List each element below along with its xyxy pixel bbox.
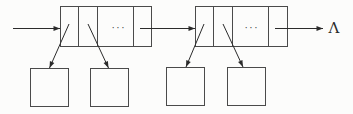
- node-box: [196, 7, 288, 47]
- child-square-2: [91, 69, 129, 107]
- null-pointer-arrow: [275, 26, 323, 31]
- list-node-1: ···: [61, 7, 152, 47]
- linked-list-diagram: ······Λ: [0, 0, 353, 114]
- child-square-3: [167, 68, 205, 106]
- arrowhead: [189, 26, 196, 31]
- next-pointer-arrow: [140, 26, 195, 31]
- ellipsis-label: ···: [245, 23, 260, 33]
- null-lambda-label: Λ: [328, 19, 340, 37]
- arrowhead: [50, 61, 55, 68]
- arrowhead: [317, 26, 324, 31]
- diagram-canvas: ······Λ: [0, 0, 353, 114]
- arrowhead: [186, 60, 191, 67]
- child-square-4: [228, 68, 266, 106]
- node-box: [61, 7, 152, 47]
- list-node-2: ···: [196, 7, 288, 47]
- entry-pointer-arrow: [13, 26, 60, 31]
- child-square-1: [31, 69, 69, 107]
- arrowhead: [238, 60, 243, 67]
- arrowhead: [54, 26, 61, 31]
- arrowhead: [104, 61, 109, 68]
- ellipsis-label: ···: [112, 23, 127, 33]
